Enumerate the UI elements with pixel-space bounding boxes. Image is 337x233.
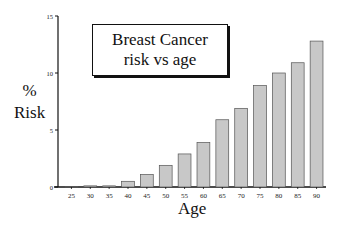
chart-title-box: Breast Cancer risk vs age <box>92 24 228 76</box>
bar <box>254 86 267 187</box>
x-tick-label: 45 <box>143 192 151 200</box>
bar <box>103 186 116 187</box>
x-tick-label: 75 <box>257 192 265 200</box>
chart-title-line-2: risk vs age <box>93 50 227 70</box>
x-tick-label: 70 <box>238 192 246 200</box>
x-tick-label: 80 <box>275 192 283 200</box>
y-tick-label: 0 <box>50 184 53 191</box>
x-tick-label: 25 <box>68 192 76 200</box>
x-tick-label: 85 <box>294 192 302 200</box>
x-tick-label: 50 <box>162 192 170 200</box>
x-tick-label: 65 <box>219 192 227 200</box>
y-tick-label: 10 <box>47 70 54 77</box>
x-tick-label: 90 <box>313 192 321 200</box>
bar <box>291 63 304 187</box>
bar <box>235 108 248 187</box>
bar <box>310 41 323 187</box>
bar <box>122 181 135 187</box>
bar <box>84 186 97 187</box>
y-axis-label-line-2: Risk <box>14 102 45 124</box>
x-tick-label: 35 <box>106 192 114 200</box>
x-tick-label: 40 <box>125 192 133 200</box>
x-tick-label: 30 <box>87 192 95 200</box>
y-tick-label: 5 <box>50 127 53 134</box>
bar <box>159 165 172 187</box>
chart-title-line-1: Breast Cancer <box>93 30 227 50</box>
bar <box>272 73 285 187</box>
bar <box>140 174 153 187</box>
y-axis-label: % Risk <box>14 80 45 124</box>
y-tick-label: 15 <box>47 13 54 20</box>
bar <box>65 186 78 187</box>
y-axis-label-line-1: % <box>14 80 45 102</box>
bar <box>178 154 191 187</box>
bar <box>216 120 229 187</box>
bar <box>197 143 210 187</box>
x-axis-label: Age <box>178 199 206 219</box>
